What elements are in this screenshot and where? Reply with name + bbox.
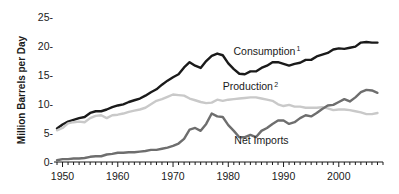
y-tick-label: 25-: [38, 11, 54, 23]
y-tick-label: 15-: [38, 69, 54, 81]
series-label-text: Net Imports: [234, 134, 288, 146]
x-tick-label: 1980: [217, 170, 241, 182]
x-tick-label: 2000: [327, 170, 351, 182]
series-label-consumption: Consumption1: [233, 45, 300, 57]
y-axis-title-group: Million Barrels per Day: [16, 35, 27, 144]
y-tick-label: 5-: [44, 127, 54, 139]
line-chart: Million Barrels per Day 0-5-10-15-20-25-…: [0, 0, 399, 194]
y-tick-label: 0-: [44, 156, 54, 168]
series-label-net-imports: Net Imports: [234, 134, 288, 146]
series-label-production: Production2: [223, 80, 278, 92]
x-tick-label: 1960: [106, 170, 130, 182]
chart-container: Million Barrels per Day 0-5-10-15-20-25-…: [0, 0, 399, 194]
x-axis-minor-ticks: [57, 162, 383, 167]
series-label-text: Consumption: [233, 45, 295, 57]
x-axis-tick-labels: 195019601970198019902000: [51, 170, 351, 182]
y-tick-label: 20-: [38, 40, 54, 52]
y-axis-title: Million Barrels per Day: [16, 35, 27, 144]
data-series-group: [57, 42, 377, 160]
series-line-production: [57, 95, 377, 131]
series-label-footnote-marker: 2: [274, 81, 278, 88]
series-label-footnote-marker: 1: [297, 45, 301, 52]
y-axis-tick-labels: 0-5-10-15-20-25-: [38, 11, 54, 167]
x-tick-label: 1990: [272, 170, 296, 182]
y-tick-label: 10-: [38, 98, 54, 110]
x-tick-label: 1950: [51, 170, 75, 182]
x-tick-label: 1970: [161, 170, 185, 182]
series-label-text: Production: [223, 80, 273, 92]
